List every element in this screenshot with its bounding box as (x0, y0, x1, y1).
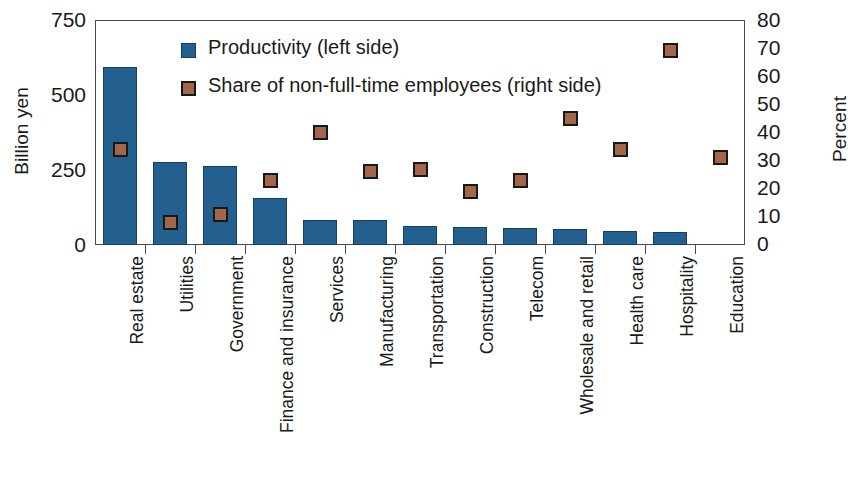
x-label-finance-and-insurance: Finance and insurance (277, 256, 298, 433)
y-right-tick-label-60: 60 (757, 64, 817, 88)
x-tick-mark (495, 245, 496, 254)
x-tick-mark (345, 245, 346, 254)
bar-transportation (403, 226, 437, 246)
y-right-tick-label-20: 20 (757, 176, 817, 200)
bar-manufacturing (353, 220, 387, 245)
y-tick-label-500: 500 (26, 83, 86, 107)
bar-utilities (153, 162, 187, 245)
x-tick-mark (395, 245, 396, 254)
y-axis-right-title: Percent (829, 69, 848, 189)
marker-government (213, 207, 228, 222)
legend-swatch-share-non-full-time (181, 81, 196, 96)
y-right-tick-label-40: 40 (757, 120, 817, 144)
y-right-tick-label-30: 30 (757, 148, 817, 172)
bar-finance-and-insurance (253, 198, 287, 245)
x-tick-mark (545, 245, 546, 254)
x-label-services: Services (327, 256, 348, 323)
marker-manufacturing (363, 164, 378, 179)
y-tick-label-0: 0 (26, 233, 86, 257)
y-right-tick-label-80: 80 (757, 8, 817, 32)
bar-construction (453, 227, 487, 245)
x-label-telecom: Telecom (527, 256, 548, 321)
bar-health-care (603, 231, 637, 245)
marker-construction (463, 184, 478, 199)
marker-wholesale-and-retail (563, 111, 578, 126)
y-tick-label-250: 250 (26, 158, 86, 182)
x-tick-mark (195, 245, 196, 254)
marker-real-estate (113, 142, 128, 157)
marker-finance-and-insurance (263, 173, 278, 188)
y-tick-label-750: 750 (26, 8, 86, 32)
marker-transportation (413, 162, 428, 177)
x-label-hospitality: Hospitality (677, 256, 698, 337)
marker-hospitality (663, 43, 678, 58)
bar-hospitality (653, 232, 687, 245)
x-tick-mark (145, 245, 146, 254)
x-label-real-estate: Real estate (127, 256, 148, 345)
marker-services (313, 125, 328, 140)
legend-swatch-productivity (181, 43, 196, 58)
x-tick-mark (245, 245, 246, 254)
bar-services (303, 220, 337, 246)
x-label-wholesale-and-retail: Wholesale and retail (577, 256, 598, 415)
chart-figure: Billion yen Percent 750 500 250 0 80 70 … (0, 0, 848, 489)
x-label-health-care: Health care (627, 256, 648, 346)
x-tick-mark (645, 245, 646, 254)
x-label-government: Government (227, 256, 248, 352)
marker-utilities (163, 215, 178, 230)
x-tick-mark (295, 245, 296, 254)
y-right-tick-label-0: 0 (757, 232, 817, 256)
x-label-education: Education (727, 256, 748, 334)
marker-health-care (613, 142, 628, 157)
bar-telecom (503, 228, 537, 245)
x-tick-mark (445, 245, 446, 254)
bar-wholesale-and-retail (553, 229, 587, 246)
x-label-construction: Construction (477, 256, 498, 354)
y-right-tick-label-10: 10 (757, 204, 817, 228)
legend-label-share-non-full-time: Share of non-full-time employees (right … (208, 74, 602, 97)
x-label-manufacturing: Manufacturing (377, 256, 398, 367)
legend-label-productivity: Productivity (left side) (208, 36, 399, 59)
x-label-transportation: Transportation (427, 256, 448, 368)
marker-education (713, 150, 728, 165)
x-tick-mark (695, 245, 696, 254)
x-tick-mark (595, 245, 596, 254)
marker-telecom (513, 173, 528, 188)
y-right-tick-label-70: 70 (757, 36, 817, 60)
x-label-utilities: Utilities (177, 256, 198, 312)
y-right-tick-label-50: 50 (757, 92, 817, 116)
